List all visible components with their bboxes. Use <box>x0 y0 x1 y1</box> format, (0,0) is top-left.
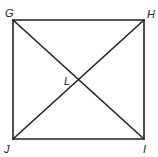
vertex-label-g: G <box>5 7 14 19</box>
vertex-label-i: I <box>143 143 146 155</box>
vertex-label-h: H <box>147 8 155 20</box>
geometry-diagram: G H J I L <box>0 0 158 157</box>
vertex-label-j: J <box>3 143 10 155</box>
intersection-label-l: L <box>64 75 70 87</box>
